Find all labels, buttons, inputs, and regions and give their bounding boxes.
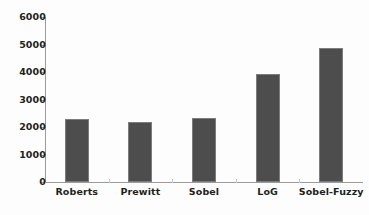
bar <box>319 48 343 183</box>
bar <box>256 74 280 182</box>
bar <box>192 118 216 183</box>
bar-series <box>0 0 369 215</box>
bar <box>65 119 89 182</box>
bar <box>128 122 152 182</box>
plot-area: 0100020003000400050006000 RobertsPrewitt… <box>0 0 369 215</box>
bar-chart: 0100020003000400050006000 RobertsPrewitt… <box>0 0 369 215</box>
x-axis-label: Sobel-Fuzzy <box>291 186 369 198</box>
